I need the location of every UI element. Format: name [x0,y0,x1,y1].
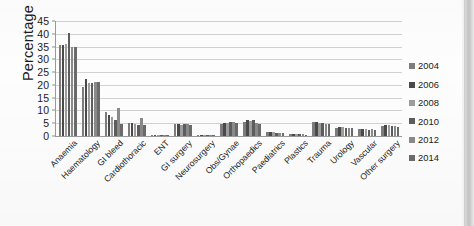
legend: 200420062008201020122014 [409,57,467,167]
bar-group [356,21,379,136]
bar-groups [56,21,402,136]
legend-item: 2014 [409,149,467,167]
bar [212,135,215,136]
bar [189,125,192,137]
y-axis-tick-mark [52,59,55,60]
legend-item: 2010 [409,112,467,130]
plot-area [55,21,402,136]
page-edge [464,0,474,226]
bar-group [102,21,125,136]
bar-group [287,21,310,136]
x-axis-category-labels: AnaemiaHaematologyGI bleedCardiothoracic… [56,138,403,222]
y-axis-tick-mark [52,84,55,85]
y-axis-tick-label: 30 [37,53,49,65]
bar [235,123,238,136]
y-axis-tick-label: 45 [37,15,49,27]
legend-label: 2012 [418,135,439,144]
x-axis-category-label: Trauma [305,138,333,166]
bar-group [264,21,287,136]
y-axis-tick-mark [52,97,55,98]
y-axis-tick-label: 0 [43,130,49,142]
y-axis-tick-label: 20 [37,79,49,91]
legend-swatch [409,137,415,143]
bar-group [310,21,333,136]
gridline [55,136,402,137]
bar-group [148,21,171,136]
legend-label: 2014 [418,153,439,162]
bar [282,133,285,136]
y-axis-tick-mark [52,123,55,124]
bar-group [79,21,102,136]
bar [351,128,354,136]
legend-label: 2004 [418,61,439,70]
bar [258,124,261,136]
bar [397,127,400,136]
bar [328,124,331,136]
legend-label: 2008 [418,98,439,107]
legend-item: 2012 [409,131,467,149]
legend-item: 2006 [409,75,467,93]
bar-group [171,21,194,136]
legend-item: 2004 [409,57,467,75]
x-axis-category-label: Plastics [282,138,310,166]
bar-group [217,21,240,136]
bar [97,82,100,136]
bar [120,124,123,136]
y-axis-tick-mark [52,21,55,22]
y-axis-tick-mark [52,72,55,73]
legend-swatch [409,155,415,161]
bar-chart: Percentage 051015202530354045 AnaemiaHae… [0,0,474,226]
bar-group [125,21,148,136]
y-axis-tick-label: 25 [37,66,49,78]
bar-group [241,21,264,136]
bar-group [333,21,356,136]
legend-swatch [409,82,415,88]
y-axis-tick-mark [52,136,55,137]
y-axis-tick-label: 15 [37,92,49,104]
bar [305,135,308,136]
bar [166,135,169,136]
y-axis-tick-mark [52,46,55,47]
legend-label: 2010 [418,117,439,126]
y-axis-tick-mark [52,110,55,111]
bar-group [379,21,402,136]
y-axis-tick-label: 10 [37,104,49,116]
legend-item: 2008 [409,94,467,112]
y-axis-tick-mark [52,33,55,34]
legend-swatch [409,118,415,124]
legend-swatch [409,100,415,106]
y-axis-tick-label: 40 [37,28,49,40]
bar [143,125,146,136]
legend-swatch [409,63,415,69]
bar-group [194,21,217,136]
y-axis-tick-labels: 051015202530354045 [26,21,52,136]
bar-group [56,21,79,136]
y-axis-tick-label: 35 [37,41,49,53]
bar [74,47,77,136]
bar [374,130,377,136]
y-axis-tick-label: 5 [43,117,49,129]
x-axis-category-label: ENT [152,138,171,157]
legend-label: 2006 [418,80,439,89]
